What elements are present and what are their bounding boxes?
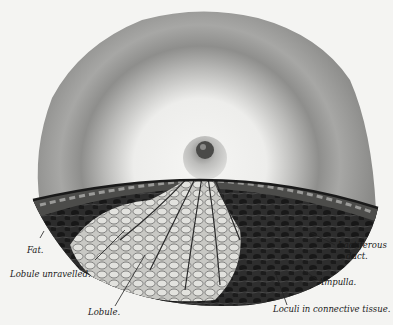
label-lobule-unravelled: Lobule unravelled. — [10, 270, 91, 279]
label-lobule: Lobule. — [88, 308, 120, 317]
nipple-areola — [183, 136, 227, 180]
label-lactiferous-duct-1: Lactiferous — [338, 241, 387, 250]
label-ampulla: Ampulla. — [318, 278, 356, 287]
label-lactiferous-duct-2: duct. — [346, 252, 368, 261]
label-fat: Fat. — [27, 246, 44, 255]
label-loculi: Loculi in connective tissue. — [273, 305, 390, 314]
